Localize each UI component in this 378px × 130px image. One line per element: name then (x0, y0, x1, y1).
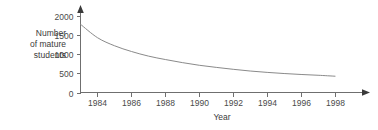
mature-students-line-chart: 0500100015002000 19841986198819901992199… (0, 0, 378, 130)
y-tick-marks (77, 17, 81, 94)
y-axis-title: Number of mature students (30, 28, 66, 60)
chart-canvas: 0500100015002000 19841986198819901992199… (0, 0, 378, 130)
y-axis-title-line-3: students (34, 50, 66, 60)
x-tick-label: 1994 (258, 98, 277, 108)
x-axis-arrow-icon (362, 89, 370, 96)
data-series-group (81, 24, 336, 76)
x-tick-label: 1996 (292, 98, 311, 108)
x-tick-marks (98, 93, 336, 97)
x-tick-label: 1984 (88, 98, 107, 108)
x-tick-label: 1990 (190, 98, 209, 108)
y-axis-title-line-1: Number (36, 28, 66, 38)
x-tick-label: 1998 (326, 98, 345, 108)
y-axis-title-line-2: of mature (30, 39, 66, 49)
y-tick-label: 500 (59, 69, 73, 79)
x-tick-label: 1988 (156, 98, 175, 108)
y-tick-label: 2000 (55, 12, 74, 22)
x-tick-label: 1986 (122, 98, 141, 108)
x-tick-label: 1992 (224, 98, 243, 108)
y-axis-arrow-icon (77, 5, 84, 13)
x-axis-title: Year (213, 112, 230, 122)
x-axis-group: 19841986198819901992199419961998 (81, 89, 371, 107)
x-tick-labels: 19841986198819901992199419961998 (88, 98, 345, 108)
y-tick-label: 0 (69, 89, 74, 99)
series-line-mature-students (81, 24, 336, 76)
